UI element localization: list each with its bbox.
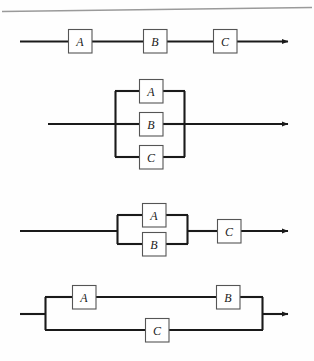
block-b-label: B <box>147 118 155 132</box>
page-rule-top <box>2 8 312 12</box>
block-a-label: A <box>146 85 155 99</box>
figure-root: A B C A B <box>0 0 314 361</box>
diagram-parallel-a-b-series-c: A B C <box>20 204 288 257</box>
block-b-label: B <box>224 291 232 305</box>
block-c-label: C <box>221 35 230 49</box>
block-c-label: C <box>147 151 156 165</box>
block-a-label: A <box>149 209 158 223</box>
block-a-label: A <box>79 291 88 305</box>
block-b-label: B <box>150 238 158 252</box>
diagram-parallel-a-b-c: A B C <box>48 80 288 170</box>
reliability-block-diagram-figure: A B C A B <box>0 0 314 361</box>
diagram-series-a-b-c: A B C <box>20 30 288 54</box>
block-a-label: A <box>75 35 84 49</box>
block-c-label: C <box>225 225 234 239</box>
diagram-series-a-b-parallel-c: A B C <box>20 286 288 343</box>
block-c-label: C <box>153 324 162 338</box>
block-b-label: B <box>151 35 159 49</box>
